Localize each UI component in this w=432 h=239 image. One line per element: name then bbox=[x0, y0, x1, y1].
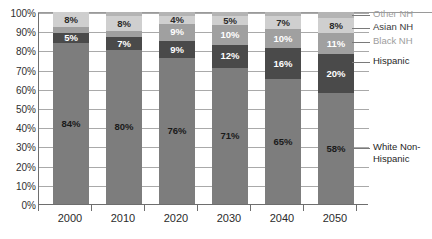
x-axis-label-2030: 2030 bbox=[199, 212, 259, 224]
x-axis-label-2050: 2050 bbox=[305, 212, 365, 224]
segment-white-nh-2030: 71% bbox=[212, 68, 248, 204]
segment-asian-nh-2040: 7% bbox=[265, 16, 301, 29]
bar-2020: 4% 9% 9% 76% bbox=[159, 12, 195, 204]
segment-hispanic-2020: 9% bbox=[159, 41, 195, 58]
legend-leader-white-non-hispanic bbox=[352, 148, 370, 149]
x-axis-label-2020: 2020 bbox=[146, 212, 206, 224]
x-tick-4 bbox=[250, 205, 251, 211]
bar-2030: 5% 10% 12% 71% bbox=[212, 12, 248, 204]
segment-black-nh-2020: 9% bbox=[159, 24, 195, 41]
legend-label-hispanic: Hispanic bbox=[373, 56, 409, 67]
segment-asian-nh-2020: 4% bbox=[159, 16, 195, 24]
segment-asian-nh-2050: 8% bbox=[318, 18, 354, 33]
plot-area: 8% 5% 84% 8% 7% 80% 4% 9% 9% 76% 5% 10% … bbox=[38, 13, 368, 205]
segment-asian-nh-2000: 8% bbox=[53, 12, 89, 27]
segment-hispanic-2050: 20% bbox=[318, 54, 354, 92]
segment-asian-nh-2010: 8% bbox=[106, 16, 142, 31]
segment-white-nh-2040: 65% bbox=[265, 79, 301, 204]
y-tick-label-100: 100% bbox=[2, 8, 36, 19]
legend-label-white-non-hispanic-line2: Hispanic bbox=[373, 154, 409, 165]
segment-white-nh-2010: 80% bbox=[106, 50, 142, 204]
legend-leader-black-nh bbox=[352, 42, 370, 43]
segment-white-nh-2020: 76% bbox=[159, 58, 195, 204]
segment-asian-nh-2030: 5% bbox=[212, 16, 248, 26]
y-tick-label-50: 50% bbox=[2, 104, 36, 115]
x-tick-2 bbox=[144, 205, 145, 211]
segment-black-nh-2050: 11% bbox=[318, 33, 354, 54]
x-tick-3 bbox=[197, 205, 198, 211]
legend-leader-other-nh bbox=[352, 15, 370, 16]
segment-hispanic-2000: 5% bbox=[53, 33, 89, 43]
legend-leader-asian-nh bbox=[352, 28, 370, 29]
x-axis-label-2040: 2040 bbox=[252, 212, 312, 224]
bar-2050: 8% 11% 20% 58% bbox=[318, 12, 354, 204]
y-tick-label-0: 0% bbox=[2, 200, 36, 211]
y-tick-label-10: 10% bbox=[2, 180, 36, 191]
x-tick-5 bbox=[303, 205, 304, 211]
segment-black-nh-2030: 10% bbox=[212, 25, 248, 44]
stacked-bar-chart: 100% 90% 80% 70% 60% 50% 40% 30% 20% 10%… bbox=[0, 0, 432, 239]
legend-label-asian-nh: Asian NH bbox=[373, 22, 413, 33]
legend-label-white-non-hispanic-line1: White Non- bbox=[373, 142, 421, 153]
y-tick-label-40: 40% bbox=[2, 123, 36, 134]
segment-hispanic-2040: 16% bbox=[265, 48, 301, 79]
y-tick-label-70: 70% bbox=[2, 65, 36, 76]
segment-white-nh-2050: 58% bbox=[318, 93, 354, 204]
legend-label-black-nh: Black NH bbox=[373, 36, 413, 47]
x-axis-label-2010: 2010 bbox=[93, 212, 153, 224]
y-tick-label-80: 80% bbox=[2, 46, 36, 57]
segment-white-nh-2000: 84% bbox=[53, 43, 89, 204]
y-axis: 100% 90% 80% 70% 60% 50% 40% 30% 20% 10%… bbox=[0, 13, 36, 205]
segment-black-nh-2040: 10% bbox=[265, 29, 301, 48]
x-tick-6 bbox=[356, 205, 357, 211]
y-tick-label-20: 20% bbox=[2, 161, 36, 172]
bar-2010: 8% 7% 80% bbox=[106, 12, 142, 204]
y-tick-label-30: 30% bbox=[2, 142, 36, 153]
y-tick-label-60: 60% bbox=[2, 84, 36, 95]
x-axis-label-2000: 2000 bbox=[40, 212, 100, 224]
bar-2040: 7% 10% 16% 65% bbox=[265, 12, 301, 204]
legend-leader-hispanic bbox=[352, 62, 370, 63]
y-tick-label-90: 90% bbox=[2, 27, 36, 38]
segment-hispanic-2030: 12% bbox=[212, 45, 248, 68]
x-tick-1 bbox=[91, 205, 92, 211]
bar-2000: 8% 5% 84% bbox=[53, 12, 89, 204]
x-tick-0 bbox=[38, 205, 39, 211]
legend-label-other-nh: Other NH bbox=[373, 9, 413, 20]
segment-hispanic-2010: 7% bbox=[106, 37, 142, 50]
